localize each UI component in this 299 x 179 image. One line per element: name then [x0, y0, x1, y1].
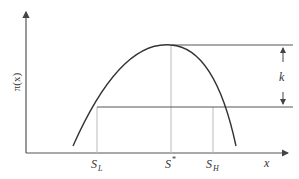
svg-text:H: H [212, 164, 220, 173]
tick-sstar: S * [165, 155, 176, 171]
tick-sl: S L [91, 157, 103, 173]
svg-text:S: S [206, 157, 212, 171]
profit-function-diagram: k π(x) x S L S * S H [0, 0, 299, 179]
k-label: k [279, 70, 285, 84]
tick-sh: S H [206, 157, 220, 173]
svg-text:L: L [97, 164, 103, 173]
svg-text:S: S [165, 157, 171, 171]
x-axis-label: x [263, 156, 270, 170]
svg-text:S: S [91, 157, 97, 171]
svg-text:*: * [172, 155, 176, 164]
y-axis-label: π(x) [10, 72, 23, 91]
